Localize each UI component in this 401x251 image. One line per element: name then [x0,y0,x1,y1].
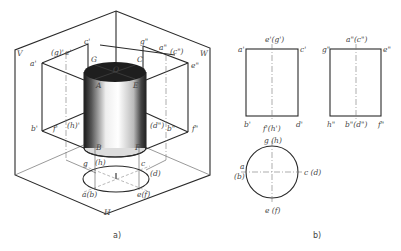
label-d2: (d") [150,121,164,130]
sv-br-label: f" [377,120,384,129]
label-V: V [17,49,24,58]
label-G: G [91,55,97,64]
label-f2: f" [191,124,198,133]
caption-b: b) [313,231,321,240]
orthographic-views: e'(g') a' c' b' f'(h') d' a"(c") g" e" h… [234,35,391,240]
label-ab: a(b) [82,190,97,199]
fv-tr-label: c' [300,45,306,54]
tv-bottom-label: e (f) [265,206,281,215]
label-ef: e(f) [137,190,150,199]
label-H: H [103,208,111,217]
pictorial-view: V W H a' (g)' e' c' b' f' (h)' g" a" (c"… [15,11,210,240]
label-O: O [113,65,119,74]
label-A: A [95,81,102,90]
label-e1: e' [65,48,72,57]
tv-left-b-label: (b) [234,172,245,181]
label-b2: b" [167,124,175,133]
sv-tl-label: g" [322,45,330,54]
side-view-rect [330,49,381,116]
label-F: F [134,143,141,152]
caption-a: a) [113,231,121,240]
sv-bl-label: h" [327,120,335,129]
tv-left-a-label: a [240,162,244,171]
fv-bottom-label: f'(h') [262,124,281,133]
label-h: (h) [95,158,106,167]
label-c: c [141,159,146,168]
sv-tr-label: e" [383,45,391,54]
label-f1: f' [52,124,58,133]
label-a2: a" [159,43,167,52]
fv-br-label: d' [296,120,303,129]
label-C: C [137,55,143,64]
label-d: (d) [150,169,161,178]
fv-tl-label: a' [238,45,245,54]
label-g1: (g)' [51,48,64,57]
label-g2: g" [140,37,148,46]
label-a1: a' [30,59,37,68]
fv-bl-label: b' [244,120,251,129]
label-c1: c' [84,37,90,46]
label-W: W [200,49,209,58]
sv-bottom-label: b"(d") [345,120,367,129]
label-e2: e" [191,61,199,70]
label-B: B [95,143,102,152]
sv-top-label: a"(c") [346,35,367,44]
tv-right-label: c (d) [304,168,321,177]
fv-top-label: e'(g') [265,35,284,44]
label-E: E [132,81,139,90]
label-b1: b' [31,124,38,133]
label-c2: (c") [170,47,184,56]
projection-figure: V W H a' (g)' e' c' b' f' (h)' g" a" (c"… [0,0,401,251]
label-g: g [83,159,88,168]
label-h1: (h)' [67,121,80,130]
tv-top-label: g (h) [264,136,282,145]
